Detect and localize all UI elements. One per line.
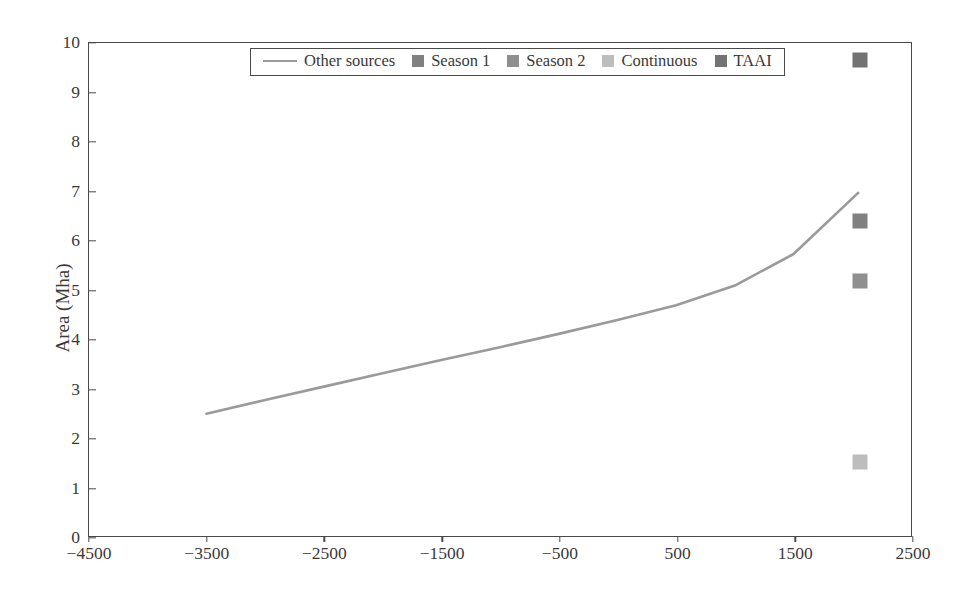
- y-tick-label: 7: [71, 183, 89, 201]
- legend-square-swatch-icon: [507, 55, 519, 67]
- x-tick-label: −3500: [184, 536, 229, 563]
- legend-label: Continuous: [621, 53, 697, 70]
- chart-figure: Area (Mha) 012345678910 −4500−3500−2500−…: [0, 0, 970, 615]
- chart-legend: Other sources Season 1 Season 2 Continuo…: [250, 48, 785, 76]
- scatter-marker-continuous: [853, 455, 868, 470]
- legend-entry-season-2: Season 2: [507, 53, 585, 70]
- y-tick-label: 5: [71, 282, 89, 300]
- scatter-marker-season-2: [853, 273, 868, 288]
- legend-label: TAAI: [734, 53, 772, 70]
- y-tick-label: 4: [71, 331, 89, 349]
- y-tick-label: 2: [71, 430, 89, 448]
- x-tick-label: 2500: [896, 536, 931, 563]
- x-tick-label: −1500: [420, 536, 465, 563]
- scatter-marker-taai: [853, 53, 868, 68]
- line-series-other-sources: [89, 43, 911, 536]
- legend-entry-taai: TAAI: [715, 53, 772, 70]
- y-tick-label: 9: [71, 84, 89, 102]
- legend-square-swatch-icon: [715, 55, 727, 67]
- y-tick-label: 6: [71, 232, 89, 250]
- x-tick-label: −4500: [67, 536, 112, 563]
- y-tick-label: 3: [71, 381, 89, 399]
- x-tick-label: −500: [542, 536, 578, 563]
- x-tick-label: 1500: [778, 536, 813, 563]
- legend-line-swatch-icon: [263, 60, 297, 62]
- y-tick-label: 8: [71, 133, 89, 151]
- x-tick-label: −2500: [302, 536, 347, 563]
- legend-entry-other-sources: Other sources: [263, 53, 395, 70]
- legend-entry-continuous: Continuous: [602, 53, 697, 70]
- scatter-marker-season-1: [853, 214, 868, 229]
- legend-label: Season 2: [526, 53, 585, 70]
- plot-area: 012345678910 −4500−3500−2500−1500−500500…: [88, 42, 912, 537]
- y-tick-label: 10: [63, 34, 90, 52]
- legend-label: Season 1: [431, 53, 490, 70]
- y-tick-label: 1: [71, 480, 89, 498]
- legend-square-swatch-icon: [412, 55, 424, 67]
- legend-entry-season-1: Season 1: [412, 53, 490, 70]
- other-sources-line: [206, 193, 858, 414]
- legend-label: Other sources: [304, 53, 395, 70]
- legend-square-swatch-icon: [602, 55, 614, 67]
- x-tick-label: 500: [664, 536, 690, 563]
